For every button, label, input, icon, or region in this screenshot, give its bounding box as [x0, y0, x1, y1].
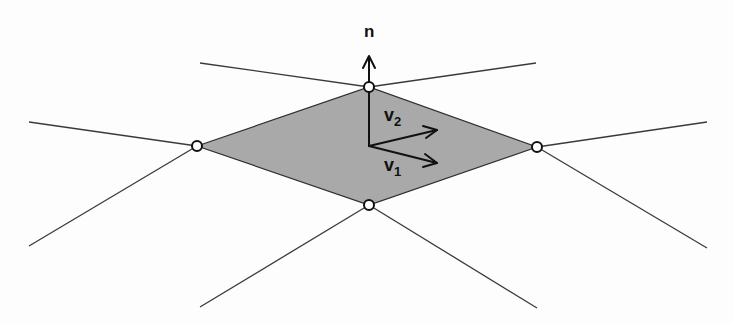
edge-left-upper — [29, 122, 197, 146]
vertex-left — [192, 141, 202, 151]
edge-right-upper — [537, 122, 707, 147]
vertex-right — [532, 142, 542, 152]
shaded-face — [197, 87, 537, 205]
edge-right-lower — [537, 147, 707, 248]
edge-left-lower — [29, 146, 197, 246]
vertex-top — [364, 82, 374, 92]
edge-top-left — [200, 63, 369, 87]
edge-top-right — [369, 63, 536, 87]
mesh-diagram: n v2 v1 — [0, 0, 733, 323]
diagram-canvas: n v2 v1 — [0, 0, 733, 323]
label-n: n — [364, 22, 374, 41]
edge-bottom-left — [200, 205, 369, 307]
vertex-bottom — [364, 200, 374, 210]
edge-bottom-right — [369, 205, 537, 308]
